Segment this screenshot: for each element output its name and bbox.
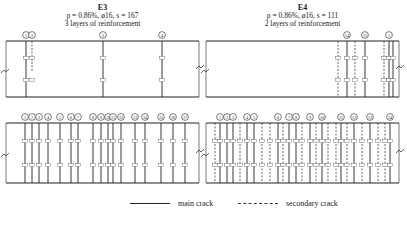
crack-width-label	[30, 164, 35, 167]
crack-width-label	[46, 140, 51, 143]
crack-number-label: 1	[219, 115, 221, 120]
crack-width-label	[76, 164, 81, 167]
crack-width-label	[376, 140, 381, 143]
crack-width-label	[171, 140, 176, 143]
crack-width-label	[326, 140, 331, 143]
crack-width-label	[391, 56, 396, 59]
crack-width-label	[336, 79, 341, 82]
crack-number-label: 11	[339, 115, 343, 120]
crack-number-label: 15	[159, 115, 163, 120]
crack-number-label: 3	[38, 115, 40, 120]
crack-width-label	[368, 140, 373, 143]
break-mark-icon	[201, 69, 209, 73]
crack-width-label	[345, 79, 350, 82]
crack-width-label	[383, 140, 388, 143]
crack-width-label	[30, 79, 35, 82]
crack-width-label	[334, 140, 339, 143]
crack-width-label	[24, 79, 29, 82]
crack-number-label: 7	[288, 115, 290, 120]
crack-number-label: 8	[92, 115, 94, 120]
crack-width-label	[345, 140, 350, 143]
legend-main-crack: main crack	[130, 199, 213, 208]
crack-width-label	[58, 140, 63, 143]
crack-width-label	[260, 164, 265, 167]
crack-width-label	[287, 140, 292, 143]
crack-width-label	[352, 164, 357, 167]
crack-number-label: 1	[25, 33, 27, 38]
crack-width-label	[111, 140, 116, 143]
crack-number-label: 13	[368, 115, 372, 120]
crack-width-label	[353, 79, 358, 82]
crack-width-label	[69, 164, 74, 167]
crack-width-label	[111, 164, 116, 167]
crack-number-label: 10	[320, 115, 324, 120]
crack-width-label	[58, 164, 63, 167]
crack-width-label	[382, 79, 387, 82]
break-mark-icon	[201, 153, 209, 157]
crack-width-label	[183, 164, 188, 167]
crack-number-label: 12	[119, 115, 123, 120]
crack-width-label	[339, 164, 344, 167]
crack-number-label: 3	[102, 33, 104, 38]
break-mark-icon	[396, 149, 404, 153]
crack-width-label	[353, 56, 358, 59]
crack-width-label	[30, 56, 35, 59]
crack-number-label: 7	[77, 115, 79, 120]
crack-width-label	[143, 164, 148, 167]
crack-width-label	[159, 164, 164, 167]
crack-number-label: 16	[171, 115, 175, 120]
legend-secondary-label: secondary crack	[286, 199, 338, 208]
crack-width-label	[101, 56, 106, 59]
crack-number-label: 17	[183, 115, 187, 120]
crack-number-label: 1	[24, 115, 26, 120]
break-mark-icon	[196, 65, 204, 69]
crack-width-label	[133, 140, 138, 143]
crack-width-label	[99, 164, 104, 167]
crack-width-label	[231, 140, 236, 143]
crack-width-label	[218, 140, 223, 143]
crack-width-label	[339, 140, 344, 143]
crack-number-label: 11	[111, 115, 115, 120]
crack-width-label	[160, 56, 165, 59]
crack-width-label	[388, 140, 393, 143]
break-mark-icon	[1, 69, 9, 73]
secondary-crack-line-sample	[238, 203, 278, 204]
crack-number-label: 6	[70, 115, 72, 120]
crack-width-label	[238, 164, 243, 167]
crack-number-label: 3	[232, 115, 234, 120]
crack-number-label: 5	[59, 115, 61, 120]
crack-width-label	[300, 140, 305, 143]
crack-width-label	[281, 164, 286, 167]
crack-width-label	[281, 140, 286, 143]
crack-width-label	[213, 164, 218, 167]
crack-width-label	[268, 140, 273, 143]
main-crack-line-sample	[130, 203, 170, 204]
crack-width-label	[101, 79, 106, 82]
crack-width-label	[160, 79, 165, 82]
crack-width-label	[225, 140, 230, 143]
crack-width-label	[383, 164, 388, 167]
crack-width-label	[334, 164, 339, 167]
crack-width-label	[133, 164, 138, 167]
break-mark-icon	[196, 149, 204, 153]
crack-width-label	[391, 79, 396, 82]
crack-width-label	[300, 164, 305, 167]
crack-width-label	[91, 140, 96, 143]
crack-width-label	[238, 140, 243, 143]
crack-width-label	[245, 164, 250, 167]
crack-width-label	[119, 164, 124, 167]
crack-width-label	[159, 140, 164, 143]
crack-width-label	[24, 56, 29, 59]
crack-width-label	[143, 140, 148, 143]
crack-number-label: 5	[253, 115, 255, 120]
crack-number-label: 13	[133, 115, 137, 120]
crack-width-label	[320, 140, 325, 143]
crack-width-label	[218, 164, 223, 167]
crack-width-label	[352, 140, 357, 143]
crack-width-label	[213, 140, 218, 143]
crack-width-label	[294, 164, 299, 167]
crack-width-label	[260, 140, 265, 143]
crack-width-label	[326, 164, 331, 167]
crack-width-label	[360, 164, 365, 167]
crack-width-label	[368, 164, 373, 167]
